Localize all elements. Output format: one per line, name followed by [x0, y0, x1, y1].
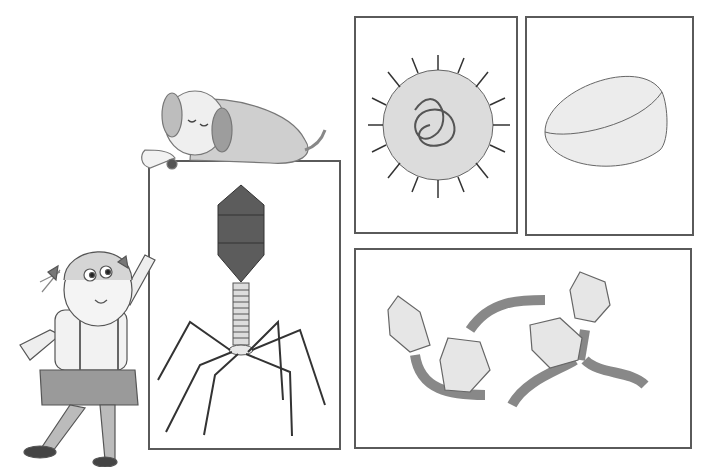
spiky-virus-illustration [368, 55, 510, 198]
dog-illustration [142, 91, 325, 169]
oval-capsule-illustration [545, 76, 667, 166]
twisted-phages-illustration [388, 272, 645, 405]
girl-illustration [20, 252, 155, 467]
phage-t4-illustration [158, 185, 325, 436]
illustration-canvas [0, 0, 704, 467]
